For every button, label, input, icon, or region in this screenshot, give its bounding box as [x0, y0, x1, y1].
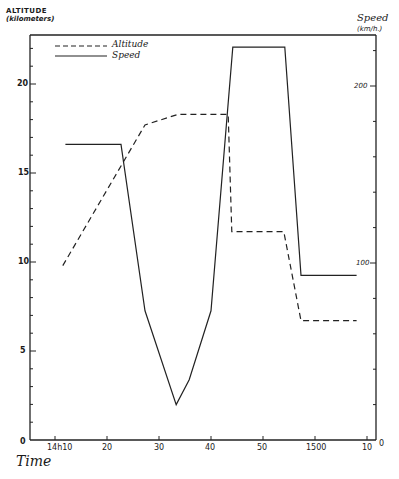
legend-speed-label: Speed: [112, 50, 140, 60]
x-tick-14h10: 14h10: [47, 443, 72, 452]
chart-plot: [0, 0, 399, 479]
speed-series-line: [65, 47, 356, 405]
y-left-tick-5: 5: [20, 346, 26, 355]
y-left-tick-10: 10: [18, 257, 29, 266]
x-tick-1500: 1500: [306, 443, 326, 452]
y-left-tick-20: 20: [17, 79, 28, 88]
legend: [55, 46, 107, 56]
x-right-origin-label: 0: [379, 439, 384, 448]
y-left-tick-15: 15: [18, 168, 29, 177]
x-tick-10: 10: [362, 443, 372, 452]
x-tick-40: 40: [205, 443, 215, 452]
x-axis-title: Time: [16, 453, 51, 469]
x-origin-label: 0: [20, 437, 26, 446]
x-tick-20: 20: [102, 443, 112, 452]
altitude-series-line: [63, 114, 357, 320]
y-right-tick-100: 100: [356, 259, 369, 267]
legend-altitude-label: Altitude: [112, 39, 148, 49]
x-tick-30: 30: [154, 443, 164, 452]
x-tick-50: 50: [257, 443, 267, 452]
y-right-tick-200: 200: [354, 82, 367, 90]
